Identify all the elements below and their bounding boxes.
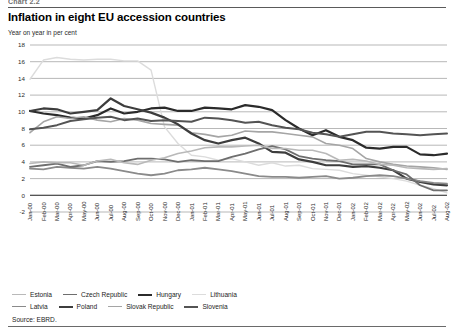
legend-item-slovak-republic[interactable]: Slovak Republic bbox=[108, 303, 184, 310]
y-axis-tick: -2 bbox=[19, 208, 25, 215]
header-divider bbox=[8, 7, 446, 8]
y-axis-tick: 14 bbox=[18, 75, 25, 82]
legend-label: Slovak Republic bbox=[126, 303, 173, 310]
legend-item-latvia[interactable]: Latvia bbox=[12, 303, 59, 310]
chart-number-label: Chart 2.2 bbox=[8, 0, 40, 6]
legend-swatch-icon bbox=[63, 294, 77, 295]
y-axis-tick-labels: 181614121086420-2 bbox=[18, 41, 25, 215]
legend-swatch-icon bbox=[108, 306, 122, 307]
chart-container: Chart 2.2 Inflation in eight EU accessio… bbox=[0, 0, 454, 329]
x-axis-tick: May-00 bbox=[81, 201, 87, 221]
plot-area: 181614121086420-2 Jan-00Feb-00Mar-00Apr-… bbox=[0, 40, 454, 255]
legend-label: Poland bbox=[77, 303, 98, 310]
legend-item-slovenia[interactable]: Slovenia bbox=[184, 303, 238, 310]
y-axis-tick: 6 bbox=[22, 141, 26, 148]
page-title: Inflation in eight EU accession countrie… bbox=[8, 11, 226, 23]
series-line-slovak-republic bbox=[30, 117, 447, 170]
x-axis-tick: Jun-00 bbox=[94, 202, 100, 221]
footer-divider bbox=[8, 326, 446, 327]
x-axis-tick: Apr-01 bbox=[229, 203, 235, 221]
x-axis-tick: Jan-00 bbox=[27, 202, 33, 221]
x-axis-tick: Feb-02 bbox=[363, 202, 369, 221]
legend-item-czech-republic[interactable]: Czech Republic bbox=[63, 291, 138, 298]
gridlines-group bbox=[30, 45, 447, 212]
legend-row-2: LatviaPolandSlovak RepublicSlovenia bbox=[12, 303, 239, 314]
x-axis-tick: Aug-01 bbox=[283, 202, 289, 221]
legend-item-lithuania[interactable]: Lithuania bbox=[192, 291, 248, 298]
x-axis-tick: Aug-02 bbox=[444, 202, 450, 221]
chart-legend: EstoniaCzech RepublicHungaryLithuania La… bbox=[0, 291, 454, 329]
legend-swatch-icon bbox=[12, 294, 26, 295]
y-axis-tick: 12 bbox=[18, 91, 25, 98]
x-axis-tick: Nov-00 bbox=[162, 201, 168, 221]
line-chart-svg: 181614121086420-2 Jan-00Feb-00Mar-00Apr-… bbox=[0, 40, 454, 255]
x-axis-tick: Dec-00 bbox=[175, 201, 181, 221]
y-axis-tick: 16 bbox=[18, 58, 25, 65]
x-axis-tick: Jul-02 bbox=[431, 205, 437, 221]
legend-label: Lithuania bbox=[210, 291, 237, 298]
legend-swatch-icon bbox=[184, 306, 198, 308]
x-axis-tick: May-02 bbox=[404, 201, 410, 221]
source-label: Source: EBRD. bbox=[12, 316, 57, 323]
legend-row-1: EstoniaCzech RepublicHungaryLithuania bbox=[12, 291, 248, 302]
x-axis-tick: Jan-01 bbox=[189, 203, 195, 221]
legend-label: Latvia bbox=[30, 303, 48, 310]
legend-item-estonia[interactable]: Estonia bbox=[12, 291, 63, 298]
x-axis-tick: Mar-01 bbox=[215, 202, 221, 221]
x-axis-tick: Mar-02 bbox=[377, 202, 383, 221]
y-axis-tick: 10 bbox=[18, 108, 25, 115]
legend-swatch-icon bbox=[192, 294, 206, 295]
legend-swatch-icon bbox=[12, 306, 26, 307]
y-axis-tick: 18 bbox=[18, 41, 25, 48]
chart-subtitle: Year on year in per cent bbox=[8, 29, 77, 36]
y-axis-tick: 8 bbox=[22, 125, 26, 132]
legend-label: Hungary bbox=[156, 291, 181, 298]
x-axis-tick: Aug-00 bbox=[121, 201, 127, 221]
legend-label: Estonia bbox=[30, 291, 52, 298]
x-axis-tick: Jun-02 bbox=[417, 203, 423, 221]
legend-swatch-icon bbox=[138, 294, 152, 296]
legend-label: Slovenia bbox=[202, 303, 227, 310]
legend-item-hungary[interactable]: Hungary bbox=[138, 291, 192, 298]
x-axis-tick: Feb-01 bbox=[202, 202, 208, 221]
legend-swatch-icon bbox=[59, 306, 73, 308]
x-axis-tick: Jul-01 bbox=[269, 205, 275, 221]
x-axis-tick: Jan-02 bbox=[350, 203, 356, 221]
x-axis-tick: May-01 bbox=[242, 201, 248, 221]
x-axis-tick: Jul-00 bbox=[108, 204, 114, 221]
x-axis-tick: Sep-01 bbox=[296, 202, 302, 221]
x-axis-tick: Jun-01 bbox=[256, 203, 262, 221]
y-axis-tick: 4 bbox=[22, 158, 26, 165]
x-axis-tick: Dec-01 bbox=[336, 202, 342, 221]
x-axis-tick-labels: Jan-00Feb-00Mar-00Apr-00May-00Jun-00Jul-… bbox=[27, 201, 450, 221]
data-series-group bbox=[30, 58, 447, 193]
x-axis-tick: Apr-02 bbox=[390, 203, 396, 221]
x-axis-tick: Nov-01 bbox=[323, 202, 329, 221]
x-axis-tick: Mar-00 bbox=[54, 202, 60, 221]
legend-label: Czech Republic bbox=[81, 291, 127, 298]
x-axis-tick: Sep-00 bbox=[135, 201, 141, 221]
x-axis-tick: Oct-01 bbox=[310, 203, 316, 221]
y-axis-tick: 2 bbox=[22, 175, 26, 182]
series-line-hungary bbox=[30, 105, 447, 155]
x-axis-tick: Apr-00 bbox=[67, 203, 73, 221]
x-axis-tick: Oct-00 bbox=[148, 203, 154, 221]
x-axis-tick: Feb-00 bbox=[41, 202, 47, 221]
legend-item-poland[interactable]: Poland bbox=[59, 303, 109, 310]
y-axis-tick: 0 bbox=[22, 192, 26, 199]
